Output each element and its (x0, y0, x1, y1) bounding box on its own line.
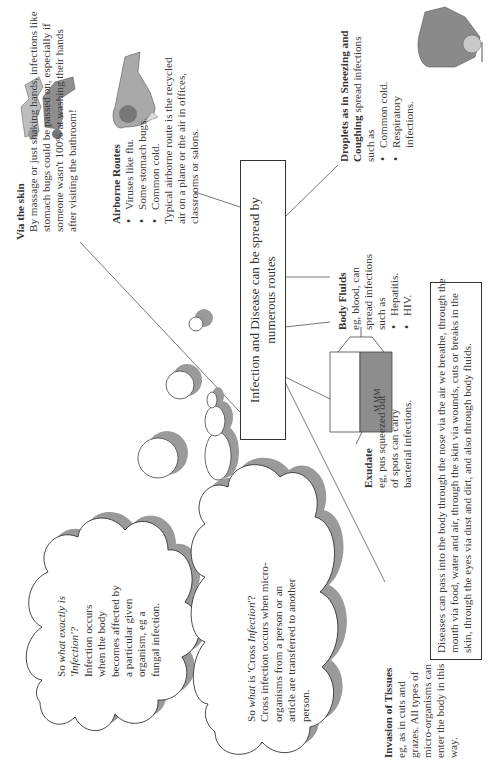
cloud-cross-q-end: '? (245, 596, 257, 603)
invasion-line: eg, as in cuts and (395, 618, 408, 758)
droplets-bullet-cont: infections. (403, 2, 416, 148)
cloud-infection-text: So what exactly is 'Infection'? Infectio… (55, 537, 162, 677)
airborne-bullet: Some stomach bugs. (136, 0, 149, 210)
cloud-cross-line: organisms from a person or an (272, 502, 285, 722)
droplets-title-rest: spread infections (351, 36, 363, 115)
airborne-note-line: classrooms or salons. (188, 0, 201, 224)
summary-line: mouth via food, water and air, through t… (448, 289, 461, 653)
exudate-title: Exudate (362, 348, 375, 488)
cloud-cross-q-italic: what (245, 686, 257, 708)
cloud-infection-q-prefix: So (55, 662, 67, 677)
cloud-infection-line: becomes affected by (109, 537, 122, 677)
via-skin-line: stomach bugs could be passed on, especia… (40, 0, 53, 232)
cloud-infection-line: a particular given (122, 537, 135, 677)
droplets-line: such as (364, 2, 377, 162)
coughing-person-illustration (418, 7, 482, 67)
airborne-note-line: air on a plane or the air in offices, (175, 0, 188, 224)
airborne-title: Airborne Routes (110, 0, 123, 224)
body-fluids-bullet: HIV. (401, 210, 414, 316)
body-fluids-title: Body Fluids (336, 210, 349, 330)
airborne-bullet: Common cold. (149, 0, 162, 210)
exudate-line: eg, pus squeezed out (375, 348, 388, 488)
infection-routes-diagram: M MM Infection and Disease can be spread… (0, 0, 491, 762)
invasion-line: grazes. All types of (408, 618, 421, 758)
cloud-cross-q-prefix: So (245, 707, 257, 722)
via-skin-title: Via the skin (14, 0, 27, 240)
exudate-line: of spots can carry (388, 348, 401, 488)
droplets-title-line1: Droplets as in Sneezing and (338, 30, 350, 162)
droplets-bullet: Respiratory (390, 2, 403, 148)
central-title-line1: Infection and Disease can be spread by (247, 197, 263, 403)
droplets-section: Droplets as in Sneezing and Coughing spr… (338, 2, 416, 162)
invasion-title: Invasion of Tissues (382, 618, 395, 758)
body-fluids-line: such as (375, 210, 388, 330)
central-title-box: Infection and Disease can be spread by n… (240, 160, 286, 440)
cloud-infection-line: when the body (95, 537, 108, 677)
cloud-infection-q-italic: what exactly is (55, 596, 67, 663)
droplets-title-bold: Coughing (351, 115, 363, 162)
cloud-infection-line: fungal infection. (149, 537, 162, 677)
summary-line: Diseases can pass into the body through … (435, 289, 448, 653)
droplets-bullet: Common cold. (377, 2, 390, 148)
airborne-bullet: Viruses like flu. (123, 0, 136, 210)
body-fluids-line: eg, blood, can (349, 210, 362, 330)
cloud-cross-line: Cross infection occurs when micro- (258, 502, 271, 722)
cloud-infection-line: organism, eg a (135, 537, 148, 677)
via-skin-line: after visiting the bathroom! (66, 0, 79, 232)
airborne-note-line: Typical airborne route is the recycled (162, 0, 175, 224)
cloud-infection-q-line2: 'Infection'? (68, 627, 80, 677)
thought-bubbles (138, 309, 213, 478)
exudate-line: bacterial infections. (401, 348, 414, 488)
airborne-section: Airborne Routes Viruses like flu. Some s… (110, 0, 201, 224)
via-skin-line: someone wasn't 100% at washing their han… (53, 0, 66, 232)
via-skin-section: Via the skin By massage or just shaking … (14, 0, 79, 240)
cloud-chain (205, 387, 239, 480)
body-fluids-bullet: Hepatitis. (388, 210, 401, 316)
exudate-section: Exudate eg, pus squeezed out of spots ca… (362, 348, 414, 488)
cloud-cross-q-italic: Infection (245, 602, 257, 642)
body-fluids-line: spread infections (362, 210, 375, 330)
body-fluids-section: Body Fluids eg, blood, can spread infect… (336, 210, 414, 330)
cloud-cross-q-mid: is 'Cross (245, 642, 257, 685)
cloud-cross-line: article are transferred to another (285, 502, 298, 722)
cloud-cross-line: person. (299, 502, 312, 722)
central-title-line2: numerous routes (263, 256, 279, 344)
cloud-infection-line: Infection occurs (82, 537, 95, 677)
summary-box: Diseases can pass into the body through … (430, 282, 482, 660)
summary-line: skin, through the eyes via dust and dirt… (461, 289, 474, 653)
via-skin-line: By massage or just shaking hands, infect… (27, 0, 40, 232)
cloud-cross-text: So what is 'Cross Infection'? Cross infe… (245, 502, 312, 722)
